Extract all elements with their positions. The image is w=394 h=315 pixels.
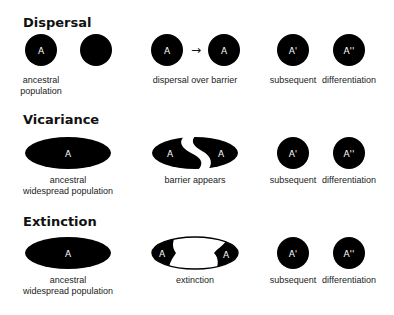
- derived-population-a1-label: A': [289, 149, 298, 159]
- split-population-shape: [152, 135, 238, 172]
- stage1-label-line1: ancestral: [50, 175, 87, 185]
- stage3-label-left: subsequent: [270, 175, 317, 185]
- widespread-population-label: A: [65, 249, 72, 259]
- dispersal-section: Dispersal A ancestral population A → A d…: [20, 15, 376, 96]
- stage1-label-line2: widespread population: [22, 186, 113, 196]
- widespread-population-label: A: [65, 149, 72, 159]
- vicariance-title: Vicariance: [23, 112, 99, 127]
- left-population-label: A: [167, 149, 174, 159]
- empty-area-circle: [80, 34, 112, 66]
- left-population-label: A: [159, 249, 166, 259]
- extinction-section: Extinction A ancestral widespread popula…: [22, 214, 376, 296]
- stage1-label-line1: ancestral: [50, 275, 87, 285]
- stage3-label-right: differentiation: [322, 75, 376, 85]
- colonized-population-label: A: [221, 46, 228, 56]
- stage1-label-line1: ancestral: [23, 75, 60, 85]
- stage3-label-left: subsequent: [270, 75, 317, 85]
- vicariance-section: Vicariance A ancestral widespread popula…: [22, 112, 376, 196]
- derived-population-a2-label: A'': [343, 249, 354, 259]
- arrow-right-icon: →: [191, 43, 201, 57]
- right-population-label: A: [218, 149, 225, 159]
- stage1-label-line2: population: [20, 86, 62, 96]
- derived-population-a1-label: A': [289, 249, 298, 259]
- stage3-label-right: differentiation: [322, 175, 376, 185]
- stage2-label: barrier appears: [164, 175, 226, 185]
- speciation-diagram: Dispersal A ancestral population A → A d…: [0, 0, 394, 315]
- stage3-label-left: subsequent: [270, 275, 317, 285]
- population-label-a: A: [38, 46, 45, 56]
- stage2-label: extinction: [176, 275, 214, 285]
- stage2-label: dispersal over barrier: [153, 75, 238, 85]
- derived-population-a2-label: A'': [343, 46, 354, 56]
- stage3-label-right: differentiation: [322, 275, 376, 285]
- extinction-title: Extinction: [23, 214, 97, 229]
- dispersal-title: Dispersal: [23, 15, 92, 30]
- stage1-label-line2: widespread population: [22, 286, 113, 296]
- right-population-label: A: [223, 250, 230, 260]
- derived-population-a2-label: A'': [343, 149, 354, 159]
- source-population-label: A: [164, 46, 171, 56]
- derived-population-a1-label: A': [289, 46, 298, 56]
